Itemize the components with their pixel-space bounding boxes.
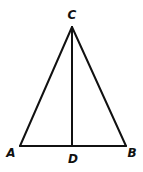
label-b: B — [127, 146, 136, 160]
label-c: C — [68, 8, 77, 22]
label-a: A — [5, 146, 15, 160]
segment-bc — [72, 27, 126, 146]
label-d: D — [68, 152, 78, 166]
segment-ac — [20, 27, 72, 146]
triangle-diagram: C A D B — [0, 0, 143, 172]
